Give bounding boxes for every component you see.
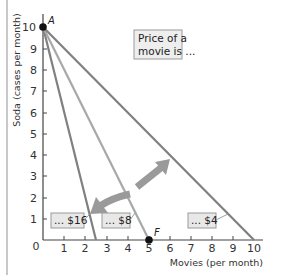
- series-label-16-text: ... $16: [54, 214, 88, 226]
- x-tick-label: 1: [61, 242, 68, 255]
- x-tick-label: 2: [82, 242, 89, 255]
- series-label-8-text: ... $8: [105, 214, 132, 226]
- x-tick-label: 9: [230, 242, 237, 255]
- series-label-16: ... $16: [51, 213, 89, 228]
- x-tick-label: 7: [188, 242, 195, 255]
- y-tick-label: 9: [30, 43, 37, 56]
- inward-rotation-arrow-icon: [90, 194, 130, 214]
- x-tick-label: 6: [167, 242, 174, 255]
- point-a-label: A: [47, 15, 55, 26]
- point-a-marker: [39, 23, 47, 31]
- y-tick-label: 2: [30, 192, 37, 205]
- x-tick-label: 5: [146, 242, 153, 255]
- y-tick-label: 4: [30, 149, 37, 162]
- point-f-label: F: [154, 227, 160, 238]
- legend-title-line2: movie is ...: [138, 45, 195, 57]
- budget-line-16: [43, 27, 96, 240]
- y-tick-label: 1: [30, 213, 37, 226]
- x-tick-label: 10: [247, 242, 261, 255]
- series-label-4: ... $4: [188, 213, 228, 228]
- x-tick-label: 8: [209, 242, 216, 255]
- legend-title-box: Price of a movie is ...: [134, 30, 195, 59]
- y-tick-label: 3: [30, 170, 37, 183]
- y-tick-label: 6: [30, 107, 37, 120]
- legend-title-line1: Price of a: [138, 32, 187, 44]
- x-axis-title: Movies (per month): [170, 257, 263, 268]
- y-tick-label: 7: [30, 85, 37, 98]
- y-tick-label: 10: [22, 21, 36, 34]
- x-tick-label: 4: [125, 242, 132, 255]
- origin-label: 0: [33, 240, 40, 253]
- y-tick-label: 5: [30, 128, 37, 141]
- y-tick-label: 8: [30, 64, 37, 77]
- x-tick-label: 3: [104, 242, 111, 255]
- series-label-8: ... $8: [102, 213, 135, 228]
- point-f-marker: [145, 236, 153, 244]
- y-axis-title: Soda (cases per month): [11, 13, 22, 127]
- series-label-4-text: ... $4: [191, 214, 218, 226]
- budget-line-chart: 10 9 8 7 6 5 4 3 2 1 0 1 2 3 4 5 6 7 8 9…: [0, 0, 283, 275]
- outward-rotation-arrow-icon: [137, 159, 170, 187]
